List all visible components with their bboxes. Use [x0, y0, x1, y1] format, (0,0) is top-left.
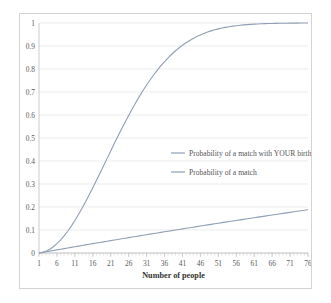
x-axis-tick-label: 41 — [179, 259, 187, 268]
x-axis-tick-label: 11 — [71, 259, 78, 268]
x-axis-tick-label: 1 — [37, 259, 41, 268]
x-axis-tick-label: 61 — [251, 259, 259, 268]
y-axis-tick-label: 0.3 — [26, 180, 36, 189]
x-axis-tick-label: 51 — [215, 259, 223, 268]
y-axis-tick-label: 1 — [31, 19, 35, 28]
gridlines — [39, 23, 308, 253]
x-axis-title: Number of people — [142, 271, 205, 280]
x-axis-tick-label: 66 — [268, 259, 276, 268]
y-axis-tick-label: 0.4 — [26, 157, 36, 166]
y-axis-tick-label: 0.9 — [26, 42, 36, 51]
x-axis-tick-label: 56 — [233, 259, 241, 268]
y-axis-tick-label: 0.6 — [26, 111, 36, 120]
legend-label-1: Probability of a match with YOUR birthda… — [189, 149, 311, 158]
x-axis-tick-label: 46 — [197, 259, 205, 268]
y-axis-tick-label: 0.1 — [26, 226, 36, 235]
x-axis-tick-label: 76 — [304, 259, 311, 268]
x-axis-tick-label: 31 — [143, 259, 151, 268]
legend-label-2: Probability of a match — [189, 168, 257, 177]
y-axis-tick-label: 0.2 — [26, 203, 36, 212]
chart-legend: Probability of a match with YOUR birthda… — [171, 149, 311, 177]
y-axis-tick-label: 0.8 — [26, 65, 36, 74]
x-axis-tick-label: 16 — [89, 259, 97, 268]
series-line-1 — [39, 210, 308, 253]
y-axis-tick-labels: 00.10.20.30.40.50.60.70.80.91 — [26, 19, 36, 258]
y-axis-tick-label: 0.7 — [26, 88, 36, 97]
x-axis-tick-label: 36 — [161, 259, 169, 268]
x-axis-major-ticks — [39, 253, 308, 257]
x-axis-tick-label: 26 — [125, 259, 133, 268]
x-axis-tick-label: 71 — [286, 259, 294, 268]
x-axis-tick-label: 21 — [107, 259, 115, 268]
chart-frame: 00.10.20.30.40.50.60.70.80.91 1611162126… — [19, 13, 312, 289]
y-axis-tick-label: 0 — [31, 249, 35, 258]
x-axis-tick-label: 6 — [55, 259, 59, 268]
x-axis-tick-labels: 161116212631364146515661667176 — [37, 259, 311, 268]
birthday-problem-line-chart: 00.10.20.30.40.50.60.70.80.91 1611162126… — [20, 14, 311, 288]
y-axis-tick-label: 0.5 — [26, 134, 36, 143]
